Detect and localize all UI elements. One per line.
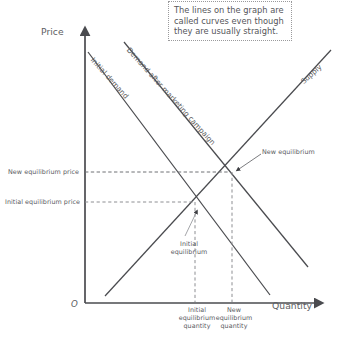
new-equilibrium-leader (239, 154, 261, 169)
new-equilibrium-quantity-label: New equilibrium quantity (208, 306, 260, 331)
new-equilibrium-price-label: New equilibrium price (8, 168, 79, 176)
initial-equilibrium-leader (185, 213, 196, 236)
supply-demand-diagram: Price Quantity O Initial demand Demand a… (0, 0, 346, 353)
x-axis-title: Quantity (272, 302, 312, 310)
new-equilibrium-annotation: New equilibrium (262, 148, 315, 156)
initial-equilibrium-annotation: Initial equilibrium (166, 240, 212, 256)
initial-equilibrium-price-label: Initial equilibrium price (5, 198, 80, 206)
origin-label: O (71, 300, 78, 308)
callout-note: The lines on the graph are called curves… (168, 1, 292, 41)
supply-curve (105, 50, 331, 296)
y-axis-title: Price (41, 28, 64, 36)
